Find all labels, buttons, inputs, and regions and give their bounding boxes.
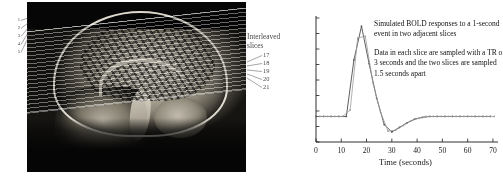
series-point-2 [372, 82, 374, 84]
x-tick-label: 40 [413, 146, 421, 155]
series-point-2 [418, 117, 420, 119]
series-point-2 [486, 116, 488, 118]
chart-annotation: Simulated BOLD responses to a 1-second e… [374, 19, 503, 79]
x-tick-label: 0 [314, 146, 318, 155]
early-slice-number: 5 [18, 50, 20, 55]
x-tick-label: 30 [388, 146, 396, 155]
early-slice-number: 1 [18, 18, 20, 23]
interleaved-slice-number: 19 [263, 68, 269, 74]
series-point-2 [380, 111, 382, 113]
interleaved-slices-callout: Interleaved slices 17 18 19 20 21 [247, 33, 290, 99]
figure-root: 1 2 3 4 5 Interleaved slices 17 18 19 20 [0, 0, 503, 176]
series-point-1 [361, 25, 363, 27]
series-point-2 [493, 116, 495, 118]
x-tick-label: 10 [337, 146, 345, 155]
series-point-2 [387, 130, 389, 132]
series-point-2 [319, 116, 321, 118]
sagittal-mri-image [27, 2, 246, 172]
series-point-2 [410, 120, 412, 122]
mri-panel: 1 2 3 4 5 Interleaved slices 17 18 19 20 [0, 0, 290, 176]
series-point-2 [448, 116, 450, 118]
series-point-1 [353, 59, 355, 61]
series-point-1 [383, 124, 385, 126]
mri-dark-bottom [27, 118, 246, 172]
series-point-2 [395, 129, 397, 131]
interleaved-slice-number: 20 [263, 76, 269, 82]
early-slice-leader-lines [9, 17, 28, 63]
x-tick-label: 50 [439, 146, 447, 155]
series-point-2 [334, 116, 336, 118]
series-point-2 [364, 35, 366, 37]
annotation-paragraph: Data in each slice are sampled with a TR… [374, 48, 503, 79]
series-point-1 [345, 116, 347, 118]
x-tick-label: 20 [363, 146, 371, 155]
x-tick-label: 60 [464, 146, 472, 155]
early-slice-number: 4 [18, 42, 20, 47]
interleaved-slice-number: 18 [263, 60, 269, 66]
series-point-2 [440, 116, 442, 118]
series-point-2 [349, 109, 351, 111]
x-axis-label-row: Time (seconds) [290, 157, 503, 167]
early-slice-number: 2 [18, 26, 20, 31]
bold-response-chart: BOLD Response (arbitrary units) Time (se… [290, 0, 503, 176]
series-point-2 [433, 116, 435, 118]
early-slice-callout: 1 2 3 4 5 [9, 17, 28, 63]
series-point-2 [357, 37, 359, 39]
early-slice-number: 3 [18, 34, 20, 39]
series-point-1 [315, 116, 317, 118]
series-point-2 [402, 125, 404, 127]
series-point-2 [463, 116, 465, 118]
x-tick-label: 70 [489, 146, 497, 155]
series-point-2 [471, 116, 473, 118]
interleaved-slice-number: 21 [263, 84, 269, 90]
series-point-2 [455, 116, 457, 118]
series-point-2 [425, 116, 427, 118]
annotation-paragraph: Simulated BOLD responses to a 1-second e… [374, 19, 503, 40]
interleaved-slice-number: 17 [263, 52, 269, 58]
series-point-1 [391, 131, 393, 133]
x-axis-label: Time (seconds) [361, 157, 432, 167]
series-point-2 [478, 116, 480, 118]
series-point-2 [327, 116, 329, 118]
series-point-2 [342, 116, 344, 118]
